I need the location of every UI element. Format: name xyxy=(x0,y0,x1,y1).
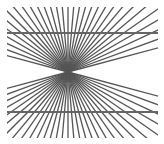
ray-line xyxy=(68,0,164,72)
illusion-canvas xyxy=(0,0,164,144)
radiating-rays xyxy=(0,0,164,144)
ray-line xyxy=(68,72,164,144)
hering-illusion-figure xyxy=(0,0,164,144)
